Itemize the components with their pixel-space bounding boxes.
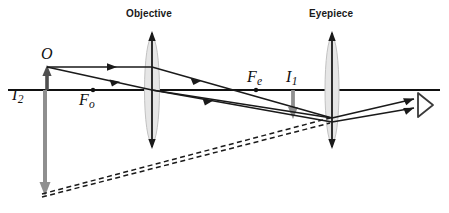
ray-bundle [47,67,414,122]
object-point-label-text: O [41,45,53,62]
ray-head-f [403,108,414,115]
objective-lens-arrow-down [148,139,155,149]
eyepiece-focal-point [254,88,258,92]
eyepiece-lens-title: Eyepiece [309,8,353,19]
eyepiece-focus-label-text: F [247,68,257,85]
image-2-label: I2 [12,86,23,105]
eye-icon [418,93,433,117]
objective-focus-label-text: F [79,91,89,108]
ray-lower-from-objective [152,90,332,122]
object-point-label: O [41,45,53,63]
objective-focus-label: Fo [79,91,95,110]
eyepiece-lens-arrow-up [328,31,335,41]
image-1-label: I1 [286,68,297,87]
object-arrow [42,65,51,90]
ray-diagram-svg [0,0,449,213]
virtual-ray-lower [42,123,330,197]
eyepiece-lens-arrow-down [328,139,335,149]
virtual-ray-upper [42,118,330,194]
image-2-arrow [40,90,51,196]
objective-lens-title: Objective [126,8,172,19]
image-2-label-sub: 2 [17,93,23,105]
ray-head-a [107,63,117,71]
image-1-label-sub: 1 [291,75,297,87]
ray-head-e [403,98,414,105]
figure-canvas: Objective Eyepiece O I2 Fo Fe I1 [0,0,449,213]
eyepiece-focus-label-sub: e [257,75,262,87]
lens-eyepiece [325,31,339,149]
objective-lens-arrow-up [148,31,155,41]
eyepiece-focus-label: Fe [247,68,262,87]
objective-focus-label-sub: o [89,98,95,110]
